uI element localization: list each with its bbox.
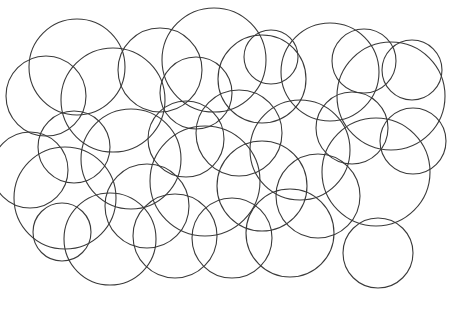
puzzle-circle xyxy=(33,203,91,261)
puzzle-circle xyxy=(38,111,110,183)
puzzle-circle xyxy=(118,28,202,112)
puzzle-circle xyxy=(246,189,334,277)
puzzle-circle xyxy=(160,57,232,129)
puzzle-circle xyxy=(150,126,260,236)
puzzle-circle xyxy=(14,147,116,249)
puzzle-circle xyxy=(64,193,156,285)
puzzle-circle xyxy=(380,108,446,174)
puzzle-circle xyxy=(382,40,442,100)
puzzle-circle xyxy=(196,90,282,176)
puzzle-circle xyxy=(316,92,388,164)
puzzle-circle xyxy=(276,154,360,238)
puzzle-circle xyxy=(244,30,298,84)
puzzle-circle xyxy=(61,48,165,152)
puzzle-circle xyxy=(322,118,430,226)
puzzle-circle xyxy=(192,198,272,278)
circle-puzzle-canvas xyxy=(0,0,449,322)
puzzle-circle xyxy=(0,132,68,208)
footer: 3 three 答案:32 xyxy=(0,276,449,322)
worksheet-page: 3 three 答案:32 xyxy=(0,0,449,322)
puzzle-circle xyxy=(337,42,445,150)
puzzle-circle xyxy=(148,101,224,177)
puzzle-circle xyxy=(217,141,307,231)
puzzle-circle xyxy=(281,23,379,121)
puzzle-circle xyxy=(332,29,396,93)
puzzle-circle xyxy=(250,100,350,200)
puzzle-circle xyxy=(29,19,125,115)
puzzle-circle xyxy=(162,8,266,112)
puzzle-circle xyxy=(81,109,181,209)
